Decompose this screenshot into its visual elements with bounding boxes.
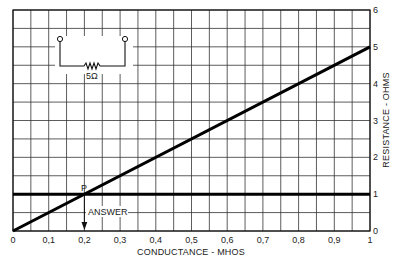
y-tick-label: 5 bbox=[373, 42, 378, 52]
y-tick-labels: 0123456 bbox=[373, 5, 378, 236]
x-tick-label: 0,8 bbox=[292, 235, 305, 245]
x-tick-label: 0,1 bbox=[42, 235, 55, 245]
y-axis-title: RESISTANCE - OHMS bbox=[381, 72, 391, 167]
x-tick-label: 0,2 bbox=[78, 235, 91, 245]
y-tick-label: 1 bbox=[373, 189, 378, 199]
y-tick-label: 0 bbox=[373, 226, 378, 236]
answer-arrow-icon bbox=[82, 222, 88, 230]
resistor-label: 5Ω bbox=[86, 71, 98, 81]
x-tick-label: 0,4 bbox=[150, 235, 163, 245]
x-tick-label: 0 bbox=[10, 235, 15, 245]
y-tick-label: 6 bbox=[373, 5, 378, 15]
chart: 00,10,20,30,40,50,60,70,80,91 0123456 5Ω… bbox=[0, 0, 396, 264]
x-axis-title: CONDUCTANCE - MHOS bbox=[137, 247, 245, 257]
y-tick-label: 3 bbox=[373, 116, 378, 126]
terminal-right-icon bbox=[122, 36, 127, 41]
x-tick-label: 0,6 bbox=[221, 235, 234, 245]
y-tick-label: 2 bbox=[373, 152, 378, 162]
terminal-left-icon bbox=[57, 36, 62, 41]
point-label: P bbox=[81, 183, 87, 193]
x-tick-labels: 00,10,20,30,40,50,60,70,80,91 bbox=[10, 235, 372, 245]
x-tick-label: 0,3 bbox=[114, 235, 127, 245]
x-tick-label: 0,9 bbox=[328, 235, 341, 245]
answer-annotation: P ANSWER bbox=[81, 183, 128, 230]
x-tick-label: 1 bbox=[367, 235, 372, 245]
answer-label: ANSWER bbox=[88, 207, 128, 217]
x-tick-label: 0,5 bbox=[185, 235, 198, 245]
y-tick-label: 4 bbox=[373, 79, 378, 89]
x-tick-label: 0,7 bbox=[257, 235, 270, 245]
